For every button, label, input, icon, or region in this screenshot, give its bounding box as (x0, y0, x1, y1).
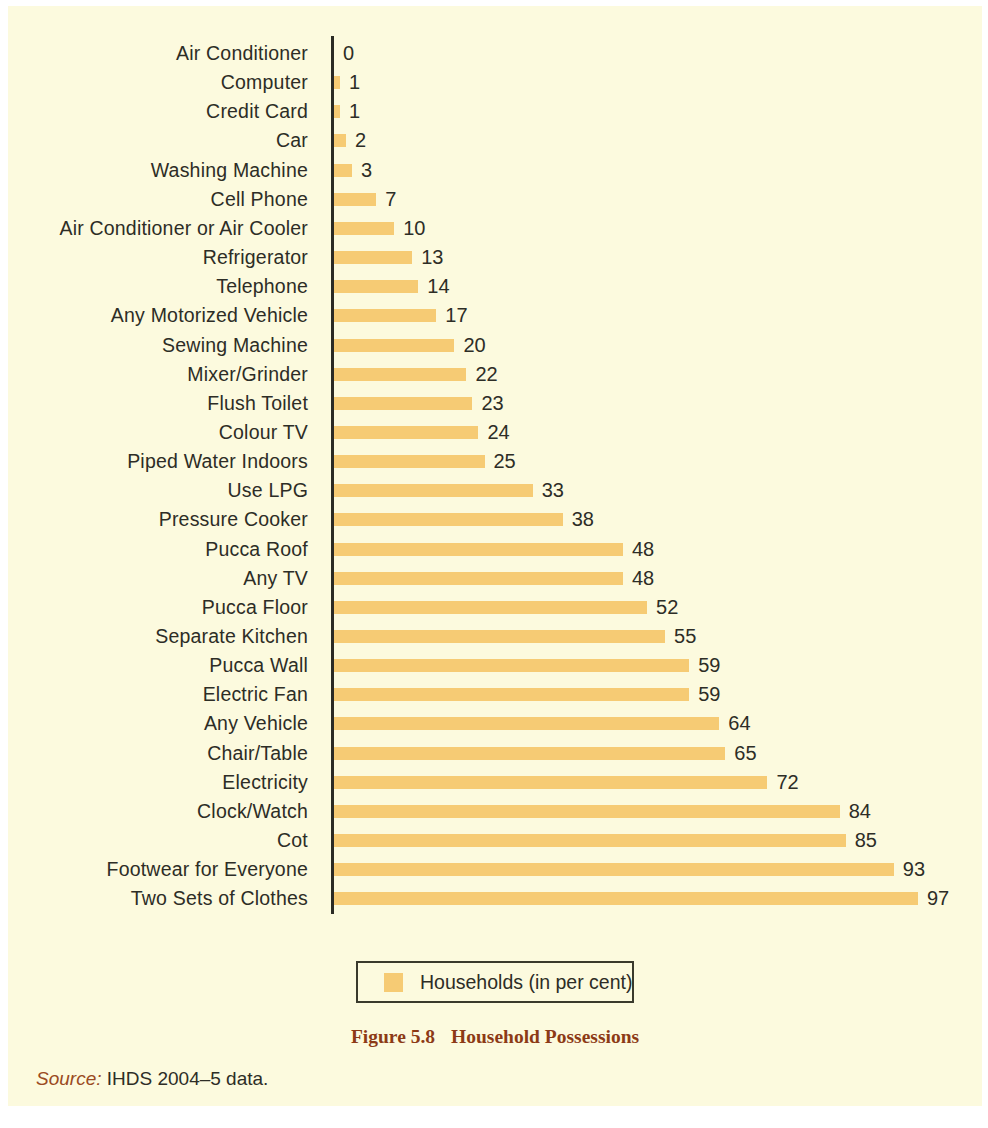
bar-value-label: 97 (927, 884, 949, 913)
bar-value-label: 17 (445, 301, 467, 330)
bar-row: Computer1 (8, 68, 982, 97)
bar-row: Flush Toilet23 (8, 389, 982, 418)
bar-value-label: 84 (849, 797, 871, 826)
bar-category-label: Pressure Cooker (0, 505, 308, 534)
bar (334, 863, 894, 876)
bar-category-label: Air Conditioner (0, 39, 308, 68)
bar (334, 601, 647, 614)
bar-value-label: 72 (776, 768, 798, 797)
bar-category-label: Air Conditioner or Air Cooler (0, 214, 308, 243)
bar-value-label: 7 (385, 185, 396, 214)
bar-category-label: Pucca Wall (0, 651, 308, 680)
bar-category-label: Electric Fan (0, 680, 308, 709)
bar-category-label: Flush Toilet (0, 389, 308, 418)
bar (334, 688, 689, 701)
bar-value-label: 25 (494, 447, 516, 476)
legend-label: Households (in per cent) (420, 971, 632, 994)
bar-row: Electricity72 (8, 768, 982, 797)
bar-category-label: Pucca Roof (0, 535, 308, 564)
bar-category-label: Refrigerator (0, 243, 308, 272)
bar-value-label: 85 (855, 826, 877, 855)
bar (334, 630, 665, 643)
bar-row: Pucca Wall59 (8, 651, 982, 680)
bar-row: Air Conditioner or Air Cooler10 (8, 214, 982, 243)
bar (334, 251, 412, 264)
bar (334, 659, 689, 672)
bar (334, 309, 436, 322)
bar (334, 455, 485, 468)
bar-value-label: 24 (487, 418, 509, 447)
source-text: IHDS 2004–5 data. (101, 1068, 268, 1089)
bar-value-label: 93 (903, 855, 925, 884)
bar (334, 222, 394, 235)
bar-value-label: 1 (349, 68, 360, 97)
bar-value-label: 59 (698, 680, 720, 709)
bar (334, 892, 918, 905)
bar-category-label: Cell Phone (0, 185, 308, 214)
bar-category-label: Cot (0, 826, 308, 855)
bar-value-label: 65 (734, 739, 756, 768)
bar-category-label: Any Motorized Vehicle (0, 301, 308, 330)
bar-row: Separate Kitchen55 (8, 622, 982, 651)
bar-row: Refrigerator13 (8, 243, 982, 272)
bar-value-label: 48 (632, 564, 654, 593)
bar-value-label: 23 (481, 389, 503, 418)
bar (334, 134, 346, 147)
bar-category-label: Clock/Watch (0, 797, 308, 826)
bar (334, 513, 563, 526)
bar-value-label: 3 (361, 156, 372, 185)
bar-row: Clock/Watch84 (8, 797, 982, 826)
bar-row: Pucca Roof48 (8, 535, 982, 564)
bar-row: Credit Card1 (8, 97, 982, 126)
bar-row: Electric Fan59 (8, 680, 982, 709)
bar (334, 339, 454, 352)
bar-row: Pucca Floor52 (8, 593, 982, 622)
bar-category-label: Electricity (0, 768, 308, 797)
bar-row: Chair/Table65 (8, 739, 982, 768)
bar-value-label: 10 (403, 214, 425, 243)
bar-row: Pressure Cooker38 (8, 505, 982, 534)
bar-row: Piped Water Indoors25 (8, 447, 982, 476)
bar-category-label: Pucca Floor (0, 593, 308, 622)
bar-chart: Air Conditioner0Computer1Credit Card1Car… (8, 6, 982, 926)
bar-category-label: Separate Kitchen (0, 622, 308, 651)
bar (334, 484, 533, 497)
bar-value-label: 59 (698, 651, 720, 680)
bar-category-label: Piped Water Indoors (0, 447, 308, 476)
bar-category-label: Any Vehicle (0, 709, 308, 738)
bar (334, 426, 478, 439)
bar-row: Air Conditioner0 (8, 39, 982, 68)
source-note: Source: IHDS 2004–5 data. (36, 1068, 268, 1090)
bar-row: Any Motorized Vehicle17 (8, 301, 982, 330)
bar (334, 164, 352, 177)
chart-legend: Households (in per cent) (356, 961, 634, 1003)
bar (334, 717, 719, 730)
bar-value-label: 64 (728, 709, 750, 738)
bar-category-label: Washing Machine (0, 156, 308, 185)
bar-row: Sewing Machine20 (8, 331, 982, 360)
figure-number: Figure 5.8 (351, 1026, 435, 1047)
bar-row: Colour TV24 (8, 418, 982, 447)
bar-row: Two Sets of Clothes97 (8, 884, 982, 913)
bar (334, 747, 725, 760)
bar (334, 543, 623, 556)
bar (334, 280, 418, 293)
bar-category-label: Chair/Table (0, 739, 308, 768)
bar-row: Footwear for Everyone93 (8, 855, 982, 884)
figure-caption: Figure 5.8Household Possessions (8, 1026, 982, 1048)
bar-category-label: Any TV (0, 564, 308, 593)
bar (334, 776, 767, 789)
bar-value-label: 52 (656, 593, 678, 622)
bar-category-label: Sewing Machine (0, 331, 308, 360)
figure-panel: Air Conditioner0Computer1Credit Card1Car… (8, 6, 982, 1106)
bar-row: Any TV48 (8, 564, 982, 593)
bar-value-label: 2 (355, 126, 366, 155)
legend-color-swatch (384, 973, 403, 992)
source-label: Source: (36, 1068, 101, 1089)
bar-row: Mixer/Grinder22 (8, 360, 982, 389)
bar-row: Washing Machine3 (8, 156, 982, 185)
bar-category-label: Use LPG (0, 476, 308, 505)
bar (334, 834, 846, 847)
bar-category-label: Two Sets of Clothes (0, 884, 308, 913)
bar (334, 397, 472, 410)
